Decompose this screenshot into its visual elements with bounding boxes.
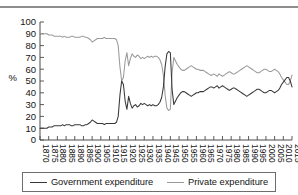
x-tick-label: 1980 — [232, 144, 242, 163]
x-tick-label: 1910 — [111, 144, 121, 163]
y-tick-label: 80 — [25, 40, 36, 51]
x-tick-label: 1965 — [206, 144, 216, 163]
y-tick-label: 50 — [25, 75, 36, 86]
y-tick-label: 60 — [25, 64, 36, 75]
x-tick-label: 1975 — [224, 144, 234, 163]
y-tick-label: 90 — [25, 28, 36, 39]
x-tick-label: 2005 — [276, 144, 286, 163]
y-tick-label: 20 — [25, 111, 36, 122]
y-axis-ticks — [40, 22, 44, 140]
x-tick-label: 1990 — [250, 144, 260, 163]
x-tick-label: 2010 — [284, 144, 294, 163]
x-tick-label: 1995 — [258, 144, 268, 163]
series-line-private-expenditure — [40, 34, 292, 111]
x-tick-label: 1900 — [93, 144, 103, 163]
x-tick-label: 1930 — [145, 144, 155, 163]
x-tick-label: 2000 — [267, 144, 277, 163]
y-axis-title-percent: % — [9, 72, 18, 83]
legend-label-government: Government expenditure — [51, 177, 153, 187]
x-tick-label: 1880 — [58, 144, 68, 163]
x-tick-label: 1870 — [41, 144, 51, 163]
x-tick-label: 1955 — [189, 144, 199, 163]
x-tick-label: 2015 — [293, 144, 298, 163]
legend-swatch-government-line — [30, 182, 47, 183]
y-tick-label: 10 — [25, 123, 36, 134]
chart-legend: Government expenditure Private expenditu… — [22, 172, 276, 192]
legend-label-private: Private expenditure — [188, 177, 268, 187]
x-tick-label: 1895 — [85, 144, 95, 163]
x-tick-label: 1970 — [215, 144, 225, 163]
line-chart-svg: 0102030405060708090100 % — [0, 12, 298, 144]
x-tick-label: 1950 — [180, 144, 190, 163]
x-tick-label: 1905 — [102, 144, 112, 163]
y-tick-label: 30 — [25, 99, 36, 110]
y-tick-label: 100 — [20, 16, 36, 27]
y-axis-tick-labels: 0102030405060708090100 — [20, 16, 36, 144]
plot-area-container: 0102030405060708090100 % — [0, 12, 298, 144]
x-tick-label: 1885 — [67, 144, 77, 163]
x-axis-tick-label-group: 1870187518801885189018951900190519101915… — [0, 142, 298, 172]
y-tick-label: 40 — [25, 87, 36, 98]
x-tick-label: 1985 — [241, 144, 251, 163]
x-tick-label: 1960 — [198, 144, 208, 163]
x-tick-label: 1925 — [137, 144, 147, 163]
x-tick-label: 1935 — [154, 144, 164, 163]
figure-chart-expenditure-share: 0102030405060708090100 % 187018751880188… — [0, 0, 298, 195]
x-tick-label: 1915 — [119, 144, 129, 163]
top-rule-divider — [0, 6, 298, 8]
x-tick-label: 1890 — [76, 144, 86, 163]
legend-item-government[interactable]: Government expenditure — [30, 177, 153, 187]
x-axis-ticks — [40, 136, 292, 140]
x-tick-label: 1945 — [171, 144, 181, 163]
y-tick-label: 70 — [25, 52, 36, 63]
x-tick-label: 1920 — [128, 144, 138, 163]
legend-item-private[interactable]: Private expenditure — [167, 177, 268, 187]
legend-swatch-private-line — [167, 182, 184, 183]
x-tick-label: 1940 — [163, 144, 173, 163]
x-tick-label: 1875 — [50, 144, 60, 163]
series-line-government-expenditure — [40, 52, 292, 129]
